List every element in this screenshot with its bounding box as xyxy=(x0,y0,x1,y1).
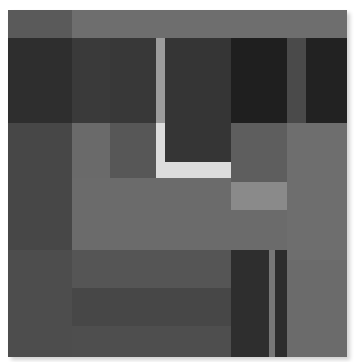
light-box xyxy=(231,182,287,210)
mid-right-column xyxy=(231,123,287,182)
top-band-right xyxy=(72,10,347,38)
dark-block-left xyxy=(8,38,72,123)
right-column xyxy=(287,123,347,260)
mid-strip-right xyxy=(287,38,306,123)
low-band-2 xyxy=(72,288,231,326)
dark-block-col3 xyxy=(110,38,156,123)
light-vertical-bar-upper xyxy=(156,38,165,123)
dark-center-block xyxy=(165,38,231,162)
darkest-block-right2 xyxy=(306,38,347,123)
right-column-lower-fill xyxy=(287,250,347,260)
low-dark-stripe-2 xyxy=(275,250,287,357)
mid-block-col2 xyxy=(72,123,110,178)
low-dark-stripe-1 xyxy=(231,250,269,357)
mid-block-col3 xyxy=(110,123,156,178)
abstract-artwork-canvas: Abstract grayscale composition of overla… xyxy=(8,10,347,357)
low-block-left xyxy=(8,250,72,357)
low-right-column xyxy=(287,260,347,357)
low-band-3 xyxy=(72,326,231,357)
dark-block-col2 xyxy=(72,38,110,123)
top-band-left xyxy=(8,10,72,38)
l-shape-horizontal xyxy=(156,162,231,178)
low-band-1 xyxy=(72,250,231,288)
darkest-block-right1 xyxy=(231,38,287,123)
mid-block-left xyxy=(8,123,72,250)
